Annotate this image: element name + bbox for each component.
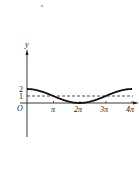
x-tick-label-2pi: 2π bbox=[74, 105, 83, 114]
x-tick-label-3pi: 3π bbox=[99, 105, 109, 114]
x-tick-label-pi: π bbox=[51, 105, 56, 114]
y-tick-label-1: 1 bbox=[19, 92, 23, 101]
speck bbox=[41, 5, 44, 8]
y-axis-label: y bbox=[24, 40, 29, 49]
y-axis-arrow-icon bbox=[26, 49, 29, 55]
origin-label: O bbox=[17, 104, 23, 113]
function-graph: y O 2 1 π 2π 3π 4π bbox=[0, 0, 139, 177]
x-tick-label-4pi: 4π bbox=[126, 105, 135, 114]
